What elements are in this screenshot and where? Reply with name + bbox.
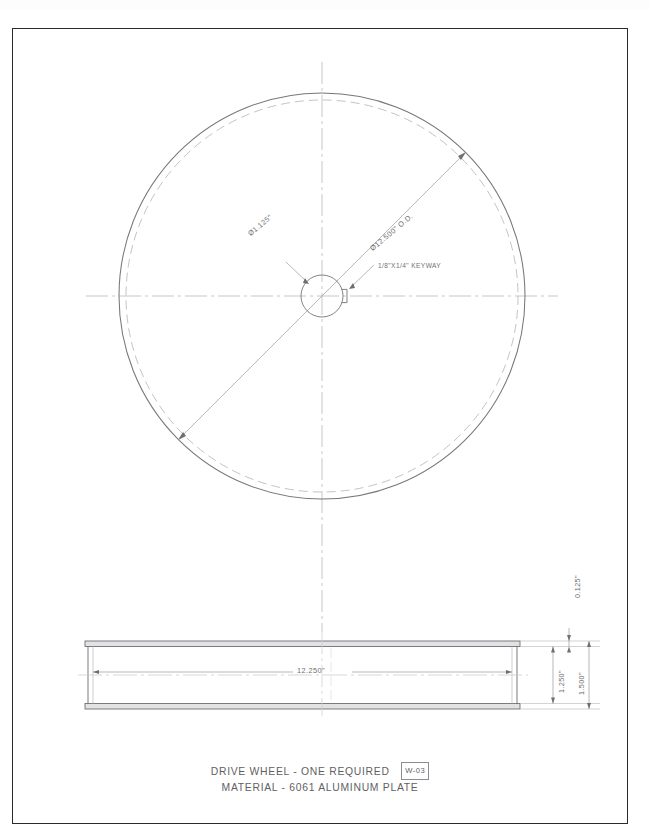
flange-arrow-top — [567, 635, 571, 641]
flange-thickness-dimension-label: 0.125" — [573, 575, 582, 598]
web-arrow-top — [551, 647, 555, 653]
width-dimension-label: 12.250" — [297, 666, 325, 675]
wheel-plan-geometry — [86, 62, 558, 632]
top-flange — [85, 641, 520, 647]
title-block-line-1: DRIVE WHEEL - ONE REQUIRED W-03 — [12, 762, 628, 780]
drawing-vector-layer — [0, 0, 650, 838]
overall-arrow-top — [587, 641, 591, 647]
title-block: DRIVE WHEEL - ONE REQUIRED W-03 MATERIAL… — [12, 762, 628, 795]
web-height-dimension-label: 1.250" — [557, 670, 566, 693]
part-title-text: DRIVE WHEEL - ONE REQUIRED — [211, 766, 390, 777]
web-arrow-bottom — [551, 698, 555, 704]
keyway-label: 1/8"X1/4" KEYWAY — [378, 262, 441, 269]
drawing-sheet: Ø1.125" Ø12.500" O.D. 1/8"X1/4" KEYWAY 1… — [0, 0, 650, 838]
width-arrow-right — [506, 670, 512, 674]
overall-height-dimension-label: 1.500" — [577, 672, 586, 695]
part-number-tag: W-03 — [401, 762, 429, 780]
width-arrow-left — [93, 670, 99, 674]
flange-arrow-bottom — [567, 647, 571, 653]
title-block-line-2: MATERIAL - 6061 ALUMINUM PLATE — [12, 780, 628, 795]
overall-arrow-bottom — [587, 703, 591, 709]
bottom-flange — [85, 704, 520, 710]
wheel-section-geometry — [78, 628, 600, 716]
